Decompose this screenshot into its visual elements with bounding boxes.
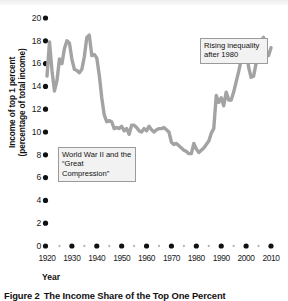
y-axis-tick-label: 6 — [19, 172, 41, 182]
y-axis-tick-label: 8 — [19, 150, 41, 160]
figure-caption: Figure 2The Income Share of the Top One … — [4, 290, 288, 301]
y-axis-tick-label: 16 — [19, 58, 41, 68]
y-axis-tick-label: 2 — [19, 218, 41, 228]
y-axis-tick-label: 12 — [19, 104, 41, 114]
y-axis-tick-label: 4 — [19, 195, 41, 205]
y-axis-tick-label: 10 — [19, 127, 41, 137]
figure-caption-number: Figure 2 — [4, 290, 40, 301]
y-axis-tick-label: 0 — [19, 241, 41, 251]
figure-caption-title: The Income Share of the Top One Percent — [44, 290, 226, 301]
y-axis-tick-label: 20 — [19, 13, 41, 23]
y-axis-title-line1: Income of top 1 percent — [7, 22, 17, 182]
y-axis-tick-label: 18 — [19, 36, 41, 46]
annotation-rising-inequality: Rising inequality after 1980 — [200, 38, 268, 64]
annotation-world-war-two: World War II and the “Great Compression” — [58, 147, 136, 182]
y-axis-tick-label: 14 — [19, 81, 41, 91]
x-axis-tick-label: 2010 — [256, 253, 286, 263]
x-axis-title: Year — [42, 272, 60, 282]
